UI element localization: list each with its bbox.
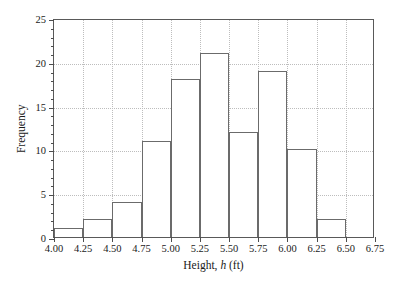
y-axis-tick <box>49 151 54 152</box>
x-axis-tick-label: 6.25 <box>307 244 325 255</box>
histogram-figure: Frequency 05101520254.004.254.504.755.00… <box>0 0 399 286</box>
x-axis-tick <box>142 237 143 242</box>
y-axis-minor-tick <box>51 213 54 214</box>
y-axis-tick-label: 10 <box>36 146 47 157</box>
y-axis-minor-tick <box>51 38 54 39</box>
x-axis-tick-label: 4.00 <box>45 244 63 255</box>
y-axis-tick <box>49 20 54 21</box>
x-axis-tick-label: 5.75 <box>249 244 267 255</box>
x-axis-tick <box>171 237 172 242</box>
y-axis-minor-tick <box>51 221 54 222</box>
y-axis-minor-tick <box>51 230 54 231</box>
histogram-bar <box>83 219 112 237</box>
histogram-bar <box>171 79 200 237</box>
x-axis-tick <box>83 237 84 242</box>
y-axis-minor-tick <box>51 169 54 170</box>
y-axis-minor-tick <box>51 160 54 161</box>
y-axis-minor-tick <box>51 204 54 205</box>
y-axis-minor-tick <box>51 178 54 179</box>
x-axis-tick-label: 6.50 <box>337 244 355 255</box>
x-axis-tick-label: 5.25 <box>191 244 209 255</box>
y-axis-minor-tick <box>51 125 54 126</box>
x-axis-tick-label: 6.00 <box>278 244 296 255</box>
y-axis-minor-tick <box>51 186 54 187</box>
y-axis-tick-label: 5 <box>41 190 46 201</box>
x-axis-title: Height, h (ft) <box>53 260 374 272</box>
y-axis-tick-label: 25 <box>36 15 47 26</box>
x-axis-tick <box>258 237 259 242</box>
y-axis-title-label: Frequency <box>15 104 27 153</box>
y-axis-minor-tick <box>51 143 54 144</box>
x-axis-tick <box>287 237 288 242</box>
x-axis-tick <box>54 237 55 242</box>
histogram-bar <box>142 141 171 237</box>
x-axis-title-prefix: Height, <box>183 259 220 271</box>
gridline-vertical <box>346 20 347 237</box>
y-axis-tick <box>49 64 54 65</box>
y-axis-tick-label: 20 <box>36 59 47 70</box>
x-axis-tick-label: 5.50 <box>220 244 238 255</box>
x-axis-tick-label: 6.75 <box>366 244 384 255</box>
x-axis-tick-label: 5.00 <box>162 244 180 255</box>
x-axis-tick <box>200 237 201 242</box>
y-axis-tick-label: 15 <box>36 102 47 113</box>
gridline-vertical <box>317 20 318 237</box>
x-axis-tick-label: 4.50 <box>103 244 121 255</box>
histogram-bar <box>317 219 346 237</box>
histogram-bar <box>287 149 316 237</box>
x-axis-tick <box>229 237 230 242</box>
histogram-bar <box>54 228 83 237</box>
x-axis-tick <box>375 237 376 242</box>
x-axis-tick-label: 4.75 <box>132 244 150 255</box>
y-axis-minor-tick <box>51 116 54 117</box>
y-axis-minor-tick <box>51 90 54 91</box>
y-axis-minor-tick <box>51 46 54 47</box>
y-axis-minor-tick <box>51 73 54 74</box>
histogram-bar <box>112 202 141 237</box>
gridline-vertical <box>83 20 84 237</box>
y-axis-tick <box>49 195 54 196</box>
y-axis-minor-tick <box>51 99 54 100</box>
y-axis-minor-tick <box>51 55 54 56</box>
histogram-bar <box>258 71 287 237</box>
x-axis-tick <box>112 237 113 242</box>
y-axis-minor-tick <box>51 81 54 82</box>
histogram-bar <box>200 53 229 237</box>
x-axis-title-suffix: (ft) <box>226 259 244 271</box>
x-axis-tick-label: 4.25 <box>74 244 92 255</box>
x-axis-tick <box>346 237 347 242</box>
y-axis-minor-tick <box>51 134 54 135</box>
histogram-bar <box>229 132 258 237</box>
y-axis-title: Frequency <box>14 19 28 238</box>
y-axis-minor-tick <box>51 29 54 30</box>
plot-inner: 05101520254.004.254.504.755.005.255.505.… <box>54 20 373 237</box>
y-axis-tick <box>49 108 54 109</box>
x-axis-tick <box>317 237 318 242</box>
plot-area: 05101520254.004.254.504.755.005.255.505.… <box>53 19 374 238</box>
